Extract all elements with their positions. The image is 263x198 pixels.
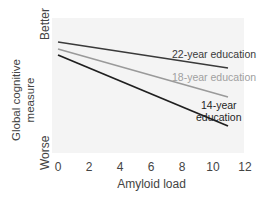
x-axis-title: Amyloid load [0, 177, 263, 191]
series-label-14-year: 14-year education [196, 99, 242, 123]
x-tick-0: 0 [48, 160, 68, 174]
y-axis-better-label: Better [38, 8, 52, 40]
y-axis-title-line1: Global cognitive [9, 55, 23, 145]
x-tick-6: 6 [141, 160, 161, 174]
series-label-18-year: 18-year education [172, 71, 256, 83]
y-axis-title: Global cognitive measure [9, 55, 37, 145]
x-tick-10: 10 [203, 160, 223, 174]
series-label-22-year: 22-year education [172, 48, 256, 60]
x-tick-8: 8 [172, 160, 192, 174]
series-label-14-year-line1: 14-year [196, 99, 242, 111]
series-label-14-year-line2: education [196, 111, 242, 123]
x-tick-12: 12 [235, 160, 255, 174]
y-axis-title-line2: measure [23, 55, 37, 145]
x-tick-4: 4 [110, 160, 130, 174]
x-tick-2: 2 [79, 160, 99, 174]
